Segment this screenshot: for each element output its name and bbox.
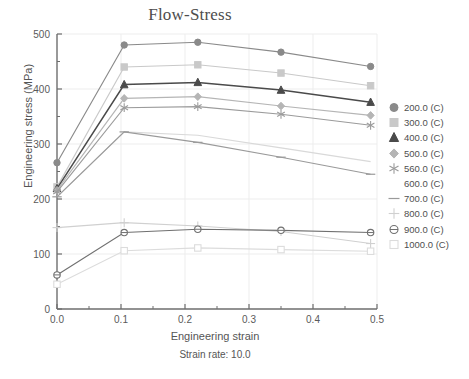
svg-text:500: 500 <box>33 29 50 40</box>
svg-text:0.2: 0.2 <box>178 314 192 325</box>
gridlines <box>57 34 377 309</box>
x-axis-label: Engineering strain <box>55 330 375 342</box>
svg-text:100: 100 <box>33 249 50 260</box>
svg-text:0.3: 0.3 <box>242 314 256 325</box>
series-3000c <box>54 62 374 191</box>
axes <box>57 34 377 309</box>
legend-marker-icon <box>386 237 403 252</box>
legend-item-label: 900.0 (C) <box>403 224 444 235</box>
svg-text:0.0: 0.0 <box>50 314 64 325</box>
svg-text:300: 300 <box>33 139 50 150</box>
series-7000c <box>52 132 375 197</box>
svg-text:400: 400 <box>33 84 50 95</box>
legend-item-label: 700.0 (C) <box>403 193 444 204</box>
legend-item[interactable]: 400.0 (C) <box>386 130 468 145</box>
legend-item[interactable]: 200.0 (C) <box>386 100 468 115</box>
series-6000c <box>57 132 371 197</box>
legend-item-label: 500.0 (C) <box>403 148 444 159</box>
series-5600c <box>53 102 374 196</box>
series-8000c <box>53 218 376 248</box>
svg-text:0.1: 0.1 <box>114 314 128 325</box>
legend-item-label: 600.0 (C) <box>403 178 444 189</box>
legend-marker-icon <box>386 161 403 176</box>
legend-item[interactable]: 560.0 (C) <box>386 161 468 176</box>
legend-item-label: 200.0 (C) <box>403 102 444 113</box>
legend-item-label: 400.0 (C) <box>403 132 444 143</box>
legend-item-label: 560.0 (C) <box>403 163 444 174</box>
legend-marker-icon <box>386 222 403 237</box>
svg-text:0.5: 0.5 <box>370 314 384 325</box>
series-4000c <box>53 78 374 192</box>
series-10000c <box>54 245 374 288</box>
legend-item[interactable]: 900.0 (C) <box>386 222 468 237</box>
legend-item[interactable]: 1000.0 (C) <box>386 237 468 252</box>
chart-legend: 200.0 (C)300.0 (C)400.0 (C)500.0 (C)560.… <box>386 100 468 252</box>
legend-marker-icon <box>386 176 403 191</box>
series-2000c <box>54 39 374 166</box>
svg-text:0: 0 <box>44 304 50 315</box>
legend-item-label: 300.0 (C) <box>403 117 444 128</box>
legend-item[interactable]: 700.0 (C) <box>386 191 468 206</box>
series-9000c <box>54 226 374 278</box>
svg-text:0.4: 0.4 <box>306 314 320 325</box>
legend-marker-icon <box>386 146 403 161</box>
data-series-layer <box>52 39 375 287</box>
chart-page: Flow-Stress 01002003004005000.00.10.20.3… <box>0 0 469 379</box>
svg-text:200: 200 <box>33 194 50 205</box>
legend-marker-icon <box>386 206 403 221</box>
legend-item-label: 800.0 (C) <box>403 208 444 219</box>
legend-marker-icon <box>386 100 403 115</box>
legend-marker-icon <box>386 191 403 206</box>
axis-tick-labels: 01002003004005000.00.10.20.30.40.5 <box>33 29 384 326</box>
legend-marker-icon <box>386 115 403 130</box>
y-axis-label: Engineering stress (MPa) <box>22 51 34 201</box>
legend-item[interactable]: 500.0 (C) <box>386 146 468 161</box>
legend-item-label: 1000.0 (C) <box>403 239 449 250</box>
legend-marker-icon <box>386 130 403 145</box>
legend-item[interactable]: 600.0 (C) <box>386 176 468 191</box>
legend-item[interactable]: 300.0 (C) <box>386 115 468 130</box>
chart-subtitle: Strain rate: 10.0 <box>55 349 375 360</box>
axis-ticks <box>57 34 377 309</box>
legend-item[interactable]: 800.0 (C) <box>386 206 468 221</box>
